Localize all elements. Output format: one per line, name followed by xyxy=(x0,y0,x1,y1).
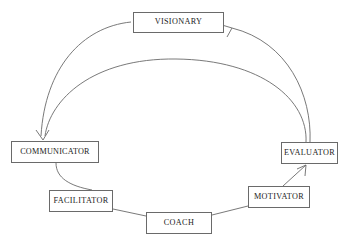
node-label-motivator: MOTIVATOR xyxy=(254,193,304,201)
edge-coach-to-motivator xyxy=(212,206,248,215)
edge-facilitator-to-coach xyxy=(113,209,146,216)
node-facilitator[interactable]: FACILITATOR xyxy=(49,190,113,212)
node-communicator[interactable]: COMMUNICATOR xyxy=(11,141,99,163)
edge-evaluator-to-visionary xyxy=(232,28,310,142)
edge-motivator-to-evaluator xyxy=(283,165,306,186)
node-visionary[interactable]: VISIONARY xyxy=(133,12,224,33)
node-label-facilitator: FACILITATOR xyxy=(53,197,108,205)
edge-communicator-to-facilitator xyxy=(56,163,92,190)
edge-evaluator-to-communicator xyxy=(45,59,306,142)
node-label-communicator: COMMUNICATOR xyxy=(20,148,90,156)
arrowhead-communicator xyxy=(36,130,49,140)
node-label-evaluator: EVALUATOR xyxy=(284,149,335,157)
node-label-visionary: VISIONARY xyxy=(155,18,203,26)
node-motivator[interactable]: MOTIVATOR xyxy=(248,186,310,208)
node-label-coach: COACH xyxy=(164,219,194,227)
node-evaluator[interactable]: EVALUATOR xyxy=(281,142,338,164)
edge-visionary-to-communicator xyxy=(41,22,131,136)
cycle-diagram: VISIONARY COMMUNICATOR EVALUATOR FACILIT… xyxy=(0,0,349,250)
node-coach[interactable]: COACH xyxy=(146,212,212,234)
